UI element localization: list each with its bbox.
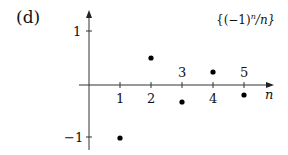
x-tick-label-3: 3 [178,66,186,79]
x-tick-label-4: 4 [209,92,217,105]
title-tail: /n} [256,13,275,27]
x-tick-label-2: 2 [147,92,155,105]
y-tick-label-1: 1 [73,25,81,38]
y-tick-label-neg1: −1 [64,131,83,144]
x-tick-label-5: 5 [240,66,248,79]
data-point-n4 [210,69,215,74]
x-axis-label: n [265,88,273,101]
data-point-n1 [117,135,122,140]
data-point-n2 [148,55,153,60]
data-point-n5 [241,92,246,97]
x-tick-label-1: 1 [116,92,124,105]
data-point-n3 [179,99,184,104]
title-base: {(−1) [216,13,251,27]
panel-label: (d) [16,9,40,26]
y-axis-arrow-icon [86,10,92,18]
chart-title: {(−1)n/n} [216,13,275,26]
